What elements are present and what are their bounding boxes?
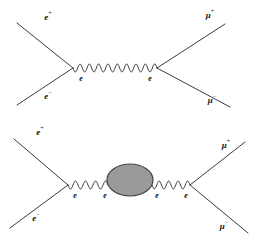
- charge-superscript: −: [225, 219, 229, 225]
- tree-level-photon-propagator: [73, 64, 157, 72]
- diagram-canvas: e+e−μ+μ−eee+e−μ+μ−eeee: [0, 0, 258, 243]
- loop-corrected-photon-propagator-left: [68, 181, 108, 189]
- tree-level-incoming-positron: e+: [44, 10, 52, 22]
- tree-level-annihilation: e+e−μ+μ−ee: [17, 8, 230, 107]
- tree-level-antimuon-out-line: [157, 24, 225, 68]
- loop-corrected-electron-in-line: [10, 185, 68, 228]
- charge-superscript: +: [211, 8, 215, 14]
- loop-corrected-incoming-positron: e+: [36, 125, 44, 137]
- tree-level-positron-in-line: [17, 23, 73, 68]
- charge-superscript: +: [48, 10, 52, 16]
- loop-corrected-incoming-electron: e−: [32, 211, 40, 223]
- vacuum-polarization-correction: e+e−μ+μ−eeee: [10, 125, 248, 233]
- loop-corrected-self-energy-blob: [107, 164, 153, 196]
- loop-corrected-positron-in-line: [14, 139, 68, 185]
- loop-corrected-blob-right-label: e: [155, 191, 159, 200]
- loop-corrected-outgoing-muon: μ−: [219, 219, 229, 231]
- loop-corrected-left-vertex-label: e: [73, 191, 77, 200]
- charge-superscript: −: [48, 89, 52, 95]
- tree-level-left-vertex-label: e: [79, 74, 83, 83]
- tree-level-incoming-electron: e−: [44, 89, 52, 101]
- tree-level-right-vertex-label: e: [148, 74, 152, 83]
- tree-level-outgoing-muon: μ−: [207, 93, 217, 105]
- tree-level-outgoing-antimuon: μ+: [205, 8, 215, 20]
- loop-corrected-antimuon-out-line: [190, 142, 245, 185]
- charge-superscript: +: [40, 125, 44, 131]
- feynman-diagram-figure: e+e−μ+μ−eee+e−μ+μ−eeee: [0, 0, 258, 243]
- loop-corrected-blob-left-label: e: [103, 191, 107, 200]
- loop-corrected-outgoing-antimuon: μ+: [221, 138, 231, 150]
- loop-corrected-photon-propagator-right: [152, 181, 190, 189]
- charge-superscript: +: [227, 138, 231, 144]
- charge-superscript: −: [36, 211, 40, 217]
- loop-corrected-right-vertex-label: e: [184, 191, 188, 200]
- tree-level-muon-out-line: [157, 68, 230, 107]
- charge-superscript: −: [213, 93, 217, 99]
